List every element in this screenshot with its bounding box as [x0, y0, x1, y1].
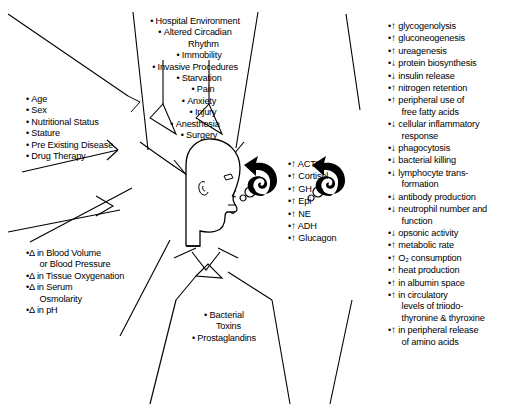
- metabolic-effect-item-label: gluconeogenesis: [396, 33, 465, 43]
- metabolic-effect-item: •↓ cellular inflammatory: [388, 118, 506, 130]
- delta-icon: Δ: [29, 248, 37, 258]
- line-top-to-head-right: [214, 142, 244, 176]
- metabolic-effect-item: •↓ bacterial killing: [388, 154, 506, 166]
- patient-factor-item: • Pre Existing Disease: [26, 140, 113, 151]
- hormone-item: •↑ NE: [288, 208, 336, 220]
- metabolic-effect-item-label: in albumin space: [396, 278, 465, 288]
- patient-factor-item-label: Pre Existing Disease: [31, 140, 113, 150]
- spiral-arrow-left: [244, 156, 277, 196]
- patient-factor-item: • Sex: [26, 105, 113, 116]
- continuation-indent: [388, 179, 401, 189]
- patient-factor-item-label: Age: [31, 94, 47, 104]
- environmental-factor-item: • Pain: [136, 84, 254, 95]
- physiologic-change-label: in Serum: [37, 282, 73, 292]
- patient-factor-item: • Stature: [26, 128, 113, 139]
- metabolic-effect-item: •↓ neutrophil number and: [388, 203, 506, 215]
- metabolic-effect-item: of amino acids: [388, 337, 506, 348]
- bacterial-mediators-list: • Bacterial Toxins• Prostaglandins: [178, 310, 270, 344]
- metabolic-effect-item-label: peripheral use of: [396, 95, 464, 105]
- metabolic-effect-item: •↑ ureagenesis: [388, 45, 506, 57]
- continuation-indent: [207, 321, 216, 331]
- continuation-indent: [26, 259, 39, 269]
- metabolic-effect-item: •↑ heat production: [388, 264, 506, 276]
- environmental-factor-item: • Altered Circadian: [136, 27, 254, 38]
- environmental-factor-item: • Hospital Environment: [136, 16, 254, 27]
- delta-icon: Δ: [29, 305, 37, 315]
- metabolic-effect-item: •↑ in peripheral release: [388, 324, 506, 336]
- line-bottom-to-head-left: [176, 276, 196, 300]
- line-bottom-center-right: [272, 300, 290, 404]
- patient-factor-item-label: Nutritional Status: [31, 117, 98, 127]
- metabolic-effect-item: •↑ metabolic rate: [388, 239, 506, 251]
- metabolic-effect-item-label: heat production: [396, 265, 460, 275]
- metabolic-effect-item-label: free fatty acids: [401, 107, 458, 117]
- hormone-item: •↑ ACTH: [288, 158, 336, 170]
- metabolic-effect-item-label: response: [401, 131, 438, 141]
- hormone-item-label: NE: [296, 209, 311, 219]
- delta-icon: Δ: [29, 282, 37, 292]
- metabolic-effect-item: •↑ O₂ consumption: [388, 252, 506, 264]
- line-bottom-to-head-right: [228, 272, 272, 300]
- line-lower-left-bottom: [120, 240, 170, 336]
- metabolic-effect-item-label: in circulatory: [396, 290, 448, 300]
- metabolic-effect-item: •↓ protein biosynthesis: [388, 57, 506, 69]
- environmental-factor-item-label: Surgery: [186, 130, 217, 140]
- hormone-item-label: ADH: [296, 221, 317, 231]
- mediator-item: • Bacterial: [178, 310, 270, 321]
- mediator-item-label: Bacterial: [209, 310, 243, 320]
- continuation-indent: [388, 107, 401, 117]
- shoulder-v: [192, 252, 220, 270]
- metabolic-effect-item-label: of amino acids: [401, 337, 458, 347]
- hormone-item-label: GH: [296, 184, 312, 194]
- metabolic-effects-list: •↑ glycogenolysis•↑ gluconeogenesis•↑ ur…: [388, 20, 506, 348]
- delta-icon: Δ: [29, 271, 37, 281]
- line-lower-left-top: [30, 188, 132, 242]
- metabolic-effect-item: •↑ nitrogen retention: [388, 82, 506, 94]
- environmental-factor-item-label: Injury: [195, 107, 217, 117]
- continuation-indent: [388, 337, 401, 347]
- environmental-factor-item: • Invasive Procedures: [136, 62, 254, 73]
- metabolic-effect-item: •↑ in albumin space: [388, 277, 506, 289]
- metabolic-effect-item-label: phagocytosis: [396, 143, 450, 153]
- physiologic-change-item: •Δ in pH: [26, 305, 124, 316]
- mediator-item-label: Toxins: [216, 321, 241, 331]
- physiologic-change-label: in Tissue Oxygenation: [37, 271, 124, 281]
- continuation-indent: [179, 39, 188, 49]
- ear-detail: [199, 182, 208, 195]
- continuation-indent: [388, 131, 401, 141]
- physiologic-change-item: or Blood Pressure: [26, 259, 124, 270]
- patient-factors-list: • Age• Sex• Nutritional Status• Stature•…: [26, 94, 113, 162]
- hormone-item-label: Glucagon: [296, 233, 337, 243]
- physiologic-change-item: •Δ in Blood Volume: [26, 248, 124, 259]
- environmental-factor-item: • Surgery: [136, 130, 254, 141]
- continuation-indent: [26, 294, 39, 304]
- environmental-factor-item-label: Hospital Environment: [156, 16, 240, 26]
- metabolic-effect-item-label: insulin release: [396, 71, 455, 81]
- arrowhead-left-mid: [96, 196, 113, 216]
- metabolic-effect-item-label: ureagenesis: [396, 46, 447, 56]
- metabolic-effect-item: function: [388, 216, 506, 227]
- environmental-factor-item-label: Anxiety: [187, 96, 216, 106]
- line-top-to-head-left: [140, 142, 192, 178]
- physiologic-change-label: or Blood Pressure: [39, 259, 110, 269]
- metabolic-effect-item: thyronine & thyroxine: [388, 313, 506, 324]
- line-head-in-left: [174, 160, 192, 182]
- metabolic-effect-item: •↓ antibody production: [388, 191, 506, 203]
- physiologic-change-item: Osmolarity: [26, 294, 124, 305]
- environmental-factor-item-label: Anesthesia: [176, 119, 220, 129]
- eye-detail: [224, 174, 233, 180]
- hormone-item: •↑ Cortisol: [288, 170, 336, 182]
- physiologic-change-label: in pH: [37, 305, 58, 315]
- hormone-item: •↑ Epi: [288, 195, 336, 207]
- spiral-tail-circle-left: [245, 187, 255, 197]
- environmental-factor-item: • Anesthesia: [136, 119, 254, 130]
- patient-factor-item: • Nutritional Status: [26, 117, 113, 128]
- metabolic-effect-item: •↓ opsonic activity: [388, 227, 506, 239]
- line-bottom-center-left: [150, 300, 176, 404]
- mediator-item: • Prostaglandins: [178, 333, 270, 344]
- shoulder-left: [174, 248, 196, 258]
- line-head-in-right: [200, 160, 214, 180]
- arrowhead-bottom: [196, 264, 222, 278]
- metabolic-effect-item: •↓ insulin release: [388, 70, 506, 82]
- metabolic-effect-item-label: formation: [401, 179, 438, 189]
